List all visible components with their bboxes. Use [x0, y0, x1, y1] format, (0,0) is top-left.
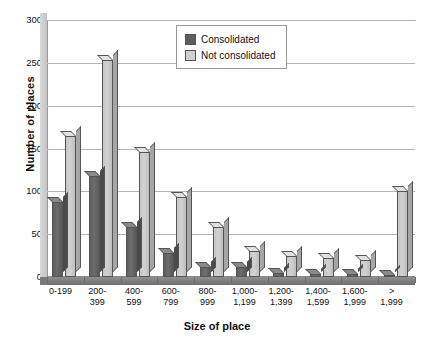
bar-face	[347, 274, 358, 277]
x-tick-mark	[268, 277, 269, 283]
bar-group	[121, 20, 158, 277]
x-axis-label: >1,999	[373, 286, 410, 308]
x-tick-mark	[84, 277, 85, 283]
bar-not-consolidated[interactable]	[397, 191, 408, 277]
bar-face	[397, 191, 408, 277]
bar-consolidated[interactable]	[310, 274, 321, 277]
bar-side	[224, 217, 229, 272]
x-axis-label: 600-799	[152, 286, 189, 308]
bar-face	[89, 176, 100, 277]
plot-top-wall	[40, 13, 415, 20]
legend-item-consolidated[interactable]: Consolidated	[185, 31, 276, 47]
bar-side	[113, 50, 118, 272]
bar-side	[371, 250, 376, 272]
bar-group	[305, 20, 342, 277]
x-tick-mark	[415, 277, 416, 283]
bar-face	[273, 273, 284, 277]
bar-consolidated[interactable]	[89, 176, 100, 277]
bar-face	[126, 227, 137, 277]
bar-side	[150, 142, 155, 272]
bar-group	[341, 20, 378, 277]
y-tick-label: 250	[8, 58, 42, 68]
x-tick-mark	[157, 277, 158, 283]
x-axis-labels: 0-199200-399400-599600-799800-9991,000-1…	[40, 286, 425, 320]
legend-label: Consolidated	[201, 34, 259, 45]
bar-consolidated[interactable]	[126, 227, 137, 277]
x-axis-label: 0-199	[42, 286, 79, 297]
bar-consolidated[interactable]	[52, 202, 63, 277]
x-axis-label: 1,400-1,599	[300, 286, 337, 308]
bar-consolidated[interactable]	[200, 267, 211, 277]
x-tick-mark	[194, 277, 195, 283]
plot-floor-left	[40, 277, 47, 285]
bar-side	[297, 246, 302, 272]
bar-group	[47, 20, 84, 277]
x-tick-mark	[341, 277, 342, 283]
bar-side	[408, 181, 413, 272]
x-axis-label: 800-999	[189, 286, 226, 308]
bar-face	[384, 275, 395, 277]
dark-swatch-icon	[185, 34, 196, 45]
y-tick-label: 0	[8, 272, 42, 282]
bar-consolidated[interactable]	[384, 275, 395, 277]
x-axis-title: Size of place	[0, 320, 434, 332]
x-tick-mark	[378, 277, 379, 283]
plot-left-wall	[40, 13, 47, 277]
y-axis-ticks: 050100150200250300	[8, 0, 42, 342]
x-axis-label: 1,200-1,399	[263, 286, 300, 308]
bar-side	[334, 248, 339, 272]
bar-side	[63, 192, 68, 272]
bar-face	[213, 227, 224, 277]
light-swatch-icon	[185, 50, 196, 61]
bar-side	[174, 243, 179, 272]
x-tick-mark	[305, 277, 306, 283]
y-tick-label: 50	[8, 229, 42, 239]
bar-group	[84, 20, 121, 277]
bar-consolidated[interactable]	[273, 273, 284, 277]
bar-not-consolidated[interactable]	[213, 227, 224, 277]
bar-face	[52, 202, 63, 277]
x-axis-label: 400-599	[116, 286, 153, 308]
bar-face	[163, 253, 174, 277]
x-tick-mark	[47, 277, 48, 283]
bar-group	[378, 20, 415, 277]
chart-legend: Consolidated Not consolidated	[176, 25, 287, 69]
chart-container: Number of places 050100150200250300 0-19…	[0, 0, 434, 342]
bar-face	[236, 267, 247, 277]
bar-consolidated[interactable]	[163, 253, 174, 277]
x-tick-mark	[121, 277, 122, 283]
bar-consolidated[interactable]	[347, 274, 358, 277]
x-axis-label: 1,600-1,999	[336, 286, 373, 308]
bar-face	[310, 274, 321, 277]
x-tick-mark	[231, 277, 232, 283]
bar-face	[200, 267, 211, 277]
x-axis-label: 1,000-1,199	[226, 286, 263, 308]
y-tick-label: 150	[8, 144, 42, 154]
bar-side	[137, 217, 142, 272]
bar-side	[100, 166, 105, 272]
bar-side	[76, 126, 81, 272]
legend-label: Not consolidated	[201, 50, 276, 61]
legend-item-not-consolidated[interactable]: Not consolidated	[185, 47, 276, 63]
y-tick-label: 300	[8, 15, 42, 25]
x-axis-label: 200-399	[79, 286, 116, 308]
y-tick-label: 100	[8, 186, 42, 196]
bar-side	[260, 241, 265, 272]
bar-consolidated[interactable]	[236, 267, 247, 277]
y-tick-label: 200	[8, 101, 42, 111]
bar-side	[187, 187, 192, 272]
